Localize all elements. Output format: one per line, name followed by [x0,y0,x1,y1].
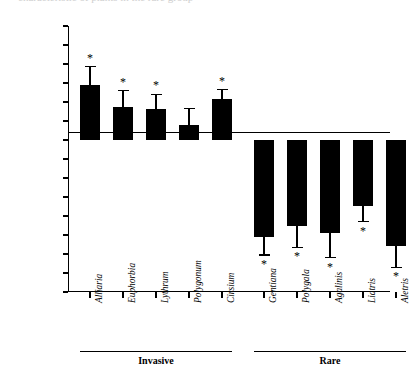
y-tick [63,158,68,159]
y-tick [63,215,68,216]
error-bar-stem [362,206,363,222]
x-axis-label: Polygala [301,269,311,303]
x-tick [221,292,222,298]
y-tick [63,272,68,273]
bar [179,125,199,140]
x-tick [188,292,189,298]
x-tick [89,292,90,298]
y-tick [63,177,68,178]
significance-asterisk: * [149,81,163,90]
group-bracket-line [80,351,232,352]
x-tick [395,292,396,298]
x-axis-label: Agalinis [334,272,344,303]
significance-asterisk: * [356,227,370,236]
bar [212,99,232,140]
bar [80,85,100,140]
error-bar-stem [395,246,396,267]
x-tick [362,292,363,298]
error-bar-cap [118,90,129,91]
x-axis-label: Euphorbia [127,263,137,303]
error-bar-stem [263,237,264,255]
error-bar-cap [391,267,402,268]
x-axis-label: Lythrum [160,272,170,304]
x-tick [122,292,123,298]
significance-asterisk: * [83,54,97,63]
error-bar-stem [188,109,189,125]
bar [287,140,307,226]
bar [386,140,406,246]
y-tick [63,120,68,121]
y-tick [63,25,68,26]
error-bar-stem [221,90,222,100]
error-bar-cap [184,108,195,109]
y-tick [63,234,68,235]
error-bar-cap [151,94,162,95]
y-tick [63,139,68,140]
error-bar-cap [259,254,270,255]
bar [146,109,166,140]
group-label: Invasive [80,355,232,366]
x-tick [296,292,297,298]
error-bar-stem [329,233,330,258]
y-tick [63,291,68,292]
plot-area: 0.60.50.40.30.20.10−0.1−0.2−0.3−0.4−0.5−… [68,26,390,292]
x-axis-label: Liatris [367,278,377,303]
x-axis-label: Alliaria [94,274,104,303]
error-bar-stem [89,67,90,85]
y-tick [63,253,68,254]
bar [113,107,133,140]
significance-asterisk: * [290,252,304,261]
x-tick [329,292,330,298]
y-tick [63,44,68,45]
error-bar-cap [358,221,369,222]
significance-asterisk: * [116,78,130,87]
bar [353,140,373,206]
significance-asterisk: * [215,77,229,86]
y-tick [63,101,68,102]
error-bar-cap [85,66,96,67]
error-bar-stem [155,94,156,108]
error-bar-cap [292,247,303,248]
error-bar-stem [122,91,123,107]
x-axis-label: Polygonum [193,260,203,303]
x-axis-label: Gentiana [268,268,278,303]
y-tick [63,196,68,197]
y-tick [63,63,68,64]
group-bracket-line [254,351,406,352]
significance-asterisk: * [323,263,337,272]
error-bar-stem [296,226,297,247]
x-tick [155,292,156,298]
x-axis-label: Cirsium [226,273,236,303]
error-bar-cap [217,89,228,90]
x-axis-label: Aletris [400,278,410,303]
group-label: Rare [254,355,406,366]
bar [254,140,274,237]
bar [320,140,340,233]
x-tick [263,292,264,298]
y-tick [63,82,68,83]
y-axis-line [68,26,69,292]
error-bar-cap [325,257,336,258]
